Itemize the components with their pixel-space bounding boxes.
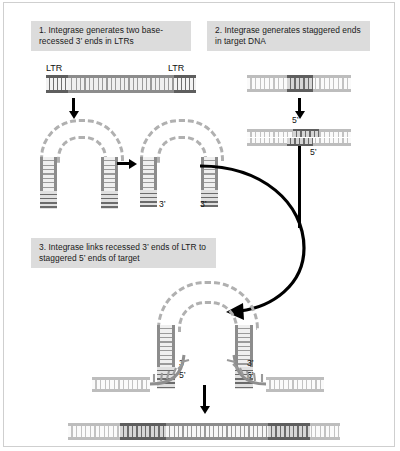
hairpin-right-stem-uncut — [101, 157, 118, 209]
panel3-left-3prime-label: 3’ — [179, 358, 186, 368]
panel3-left-5prime-label: 5’ — [179, 370, 186, 380]
target-center-rail-bottom — [287, 89, 313, 92]
arm-rail-bottom — [266, 389, 324, 392]
panel-2-caption: 2. Integrase generates staggered ends in… — [207, 21, 370, 51]
panel3-target-arm-right — [266, 377, 324, 392]
panel3-target-arm-left — [92, 377, 150, 392]
ltr-left-rail-bottom — [46, 90, 68, 93]
target-center-segment — [287, 75, 313, 92]
staggered-top-strand — [247, 129, 351, 137]
product-ltr-left-rungs — [120, 426, 166, 438]
panel3-right-5prime-label: 5’ — [247, 370, 254, 380]
ltr-right-rail-bottom — [174, 90, 196, 93]
panel2-5prime-top-label: 5’ — [292, 115, 299, 125]
ltr-right-rungs — [174, 78, 196, 91]
panel1-right-arrow — [117, 162, 130, 165]
hairpin-group-uncut — [40, 119, 118, 209]
product-provirus-body — [166, 423, 268, 440]
product-ltr-left-rail-bottom — [120, 437, 166, 440]
stem-ltr-dark-left — [40, 191, 57, 209]
figure-frame: 1. Integrase generates two base-recessed… — [3, 2, 395, 447]
panel1-right-3prime-label: 3’ — [200, 199, 207, 209]
integrated-product-duplex — [68, 423, 340, 440]
staggered-top-dark-segment — [293, 129, 319, 137]
ltr-left-label: LTR — [46, 63, 62, 73]
product-ltr-right-rungs — [268, 426, 310, 438]
target-dna-duplex — [247, 75, 351, 92]
arm-rungs — [92, 380, 150, 390]
panel3-down-arrow — [203, 385, 206, 407]
staggered-bottom-dark-segment — [287, 138, 313, 146]
panel3-hairpin-group — [157, 281, 253, 389]
target-center-rungs — [287, 78, 313, 90]
product-body-rail-bottom — [166, 437, 268, 440]
arm-rail-bottom — [92, 389, 150, 392]
product-ltr-right — [268, 423, 310, 440]
panel2-down-arrow — [298, 98, 301, 112]
stem-ltr-dark-left — [157, 367, 175, 389]
product-body-rungs — [166, 426, 268, 438]
ltr-right-label: LTR — [168, 63, 184, 73]
ltr-segment-right — [174, 75, 196, 93]
arm-rungs — [266, 380, 324, 390]
panel-1-caption: 1. Integrase generates two base-recessed… — [31, 21, 191, 51]
provirus-duplex — [46, 75, 196, 93]
product-ltr-left — [120, 423, 166, 440]
stem-ltr-dark-right — [101, 191, 118, 209]
panel3-right-3prime-label: 3’ — [247, 358, 254, 368]
panel1-down-arrow — [72, 98, 75, 112]
target-dna-staggered — [247, 129, 351, 146]
ltr-segment-left — [46, 75, 68, 93]
panel2-connector-line — [298, 146, 301, 228]
hairpin-left-stem-uncut — [40, 157, 57, 209]
hairpin-left-stem-cut — [140, 157, 157, 207]
hairpin-group-cut — [140, 119, 218, 209]
panel-3-caption: 3. Integrase links recessed 3’ ends of L… — [31, 238, 216, 268]
panel3-left-stem — [157, 325, 175, 389]
staggered-bottom-strand — [247, 138, 351, 146]
ltr-left-rungs — [46, 78, 68, 91]
product-ltr-right-rail-bottom — [268, 437, 310, 440]
panel1-left-3prime-label: 3’ — [159, 199, 166, 209]
stem-ltr-dark-left — [140, 190, 157, 207]
panel2-5prime-bottom-label: 5’ — [310, 147, 317, 157]
